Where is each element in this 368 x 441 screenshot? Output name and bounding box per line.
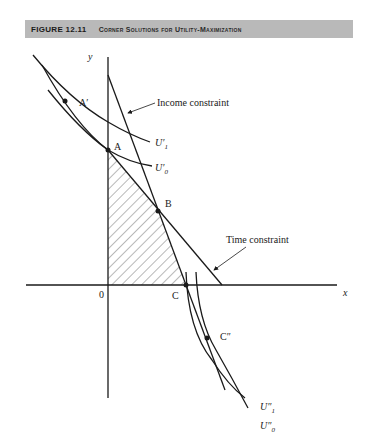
feasible-region (108, 150, 186, 285)
curve-U1-prime (33, 55, 150, 142)
time-constraint-arrow (214, 247, 246, 270)
label-U1-double-prime: U″1 (260, 401, 275, 415)
x-axis-label: x (342, 287, 348, 298)
point-A (106, 148, 111, 153)
label-B: B (165, 198, 172, 209)
curve-U1-double-prime (186, 272, 245, 398)
income-constraint-arrow (128, 103, 155, 113)
label-A: A (114, 141, 122, 152)
time-constraint-label: Time constraint (226, 234, 289, 245)
label-C-double-prime: C″ (220, 331, 231, 342)
point-B (156, 209, 161, 214)
label-U0-double-prime: U″0 (260, 420, 275, 434)
point-A-prime (63, 99, 68, 104)
label-U0-prime: U′0 (155, 162, 168, 176)
origin-label: 0 (99, 289, 104, 300)
point-C (184, 283, 189, 288)
point-C-double-prime (205, 336, 210, 341)
label-C: C (172, 290, 179, 301)
label-A-prime: A′ (79, 97, 88, 108)
y-axis-label: y (87, 51, 93, 62)
income-constraint-label: Income constraint (157, 97, 229, 108)
utility-diagram: y x 0 A′ A B C C″ U′1 U′0 U″1 U″0 Income… (0, 0, 368, 441)
label-U1-prime: U′1 (155, 137, 168, 151)
